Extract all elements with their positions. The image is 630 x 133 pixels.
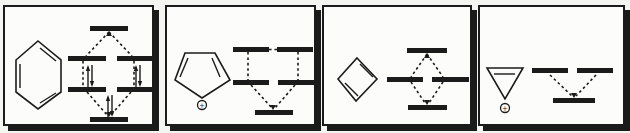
mo-level-bottom <box>408 105 447 110</box>
panel-cyclopropenyl-cation: + <box>478 5 625 126</box>
mo-level-upper-right <box>117 56 152 61</box>
mo-level-top <box>407 48 447 53</box>
correlation-dash <box>275 85 295 108</box>
arrowhead-down-icon <box>424 100 430 105</box>
cyclobutadiene-mo-graphic <box>324 7 470 124</box>
correlation-dash <box>550 75 572 96</box>
mo-level-bottom <box>553 98 595 103</box>
mo-level-mid-left <box>387 77 423 82</box>
electron-pair-arrows <box>86 65 90 71</box>
mo-level-mid-right <box>278 80 314 85</box>
cyclopentadienyl-cation-mo-graphic: + <box>167 7 314 124</box>
cyclopropenyl-cation-mo-graphic: + <box>480 7 623 124</box>
cyclopentadienyl-ring <box>175 53 230 98</box>
arrowhead-up-icon <box>424 53 430 58</box>
panel-cyclobutadiene <box>322 5 472 126</box>
plus-charge-label: + <box>502 105 508 113</box>
mo-level-lower-right <box>117 87 152 92</box>
mo-level-top <box>90 26 128 31</box>
correlation-dash <box>86 32 109 56</box>
benzene-mo-graphic <box>5 7 152 124</box>
benzene-ring <box>16 41 61 109</box>
correlation-dash <box>251 85 272 108</box>
arrowhead-down-icon <box>270 105 276 110</box>
mo-level-top-left <box>233 47 269 52</box>
mo-level-mid-left <box>233 80 269 85</box>
mo-level-top-left <box>532 68 568 73</box>
correlation-dash <box>111 92 131 115</box>
mo-level-lower-left <box>68 87 106 92</box>
mo-level-top-right <box>277 47 313 52</box>
correlation-dash <box>429 82 443 103</box>
electron-pair-arrows <box>106 95 110 101</box>
plus-charge-label: + <box>199 102 205 110</box>
correlation-dash <box>87 92 107 115</box>
double-bond-line <box>360 64 373 77</box>
cyclopropenyl-ring <box>487 68 523 99</box>
mo-level-top-right <box>577 68 613 73</box>
panel-cyclopentadienyl-cation: + <box>165 5 316 126</box>
double-bond-line <box>180 58 188 77</box>
electron-pair-arrows <box>90 81 94 87</box>
correlation-dash <box>411 82 425 103</box>
correlation-dash <box>576 75 596 96</box>
mo-level-bottom <box>90 117 128 122</box>
mo-level-upper-left <box>68 56 106 61</box>
mo-diagram-figure: + + <box>0 0 630 133</box>
correlation-dash <box>109 32 132 56</box>
mo-level-bottom <box>255 110 293 115</box>
mo-level-mid-right <box>432 77 469 82</box>
electron-pair-arrows <box>138 81 142 87</box>
panel-benzene <box>3 5 154 126</box>
